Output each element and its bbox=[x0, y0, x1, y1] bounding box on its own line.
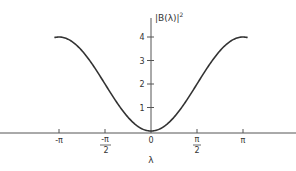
x-tick-label-zero: 0 bbox=[148, 136, 153, 145]
svg-text:2: 2 bbox=[103, 146, 108, 155]
chart: 4 3 2 1 |B(λ)|2 -π -π 2 0 π 2 π λ bbox=[0, 0, 296, 171]
y-tick-label-4: 4 bbox=[139, 33, 144, 42]
x-tick-label-neg-half-pi: -π 2 bbox=[100, 135, 111, 155]
y-tick-label-3: 3 bbox=[139, 57, 144, 66]
y-axis-label: |B(λ)|2 bbox=[155, 11, 184, 23]
x-tick-label-neg-pi: -π bbox=[55, 136, 63, 145]
y-tick-label-2: 2 bbox=[139, 80, 144, 89]
x-axis-label: λ bbox=[148, 155, 154, 165]
x-tick-label-half-pi: π 2 bbox=[193, 135, 201, 155]
svg-text:2: 2 bbox=[194, 146, 199, 155]
svg-text:-π: -π bbox=[101, 135, 109, 144]
x-tick-label-pi: π bbox=[241, 136, 246, 145]
svg-text:π: π bbox=[195, 135, 200, 144]
y-tick-label-1: 1 bbox=[139, 104, 144, 113]
